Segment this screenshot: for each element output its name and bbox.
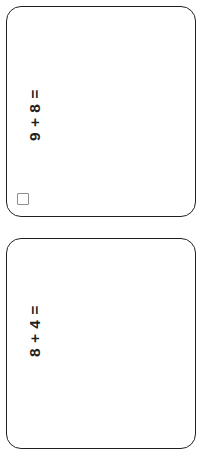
problem-text: 9 + 8 = [27, 89, 43, 141]
card-checkbox[interactable] [17, 193, 29, 205]
problem-text: 8 + 4 = [27, 305, 43, 357]
math-card[interactable]: 9 + 8 = [6, 6, 196, 217]
math-card[interactable]: 8 + 4 = [6, 238, 196, 449]
